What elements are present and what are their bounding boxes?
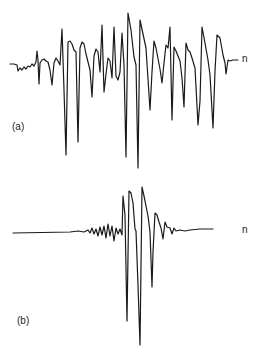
trace-b-end-label: n	[242, 224, 248, 235]
trace-a-waveform	[10, 13, 238, 168]
panel-label-a: (a)	[12, 121, 24, 132]
panel-label-b: (b)	[17, 315, 29, 326]
waveform-figure	[0, 0, 258, 357]
trace-a-end-label: n	[242, 53, 248, 64]
trace-b-waveform	[13, 187, 213, 345]
